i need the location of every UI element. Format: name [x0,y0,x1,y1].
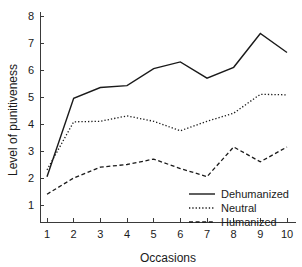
legend-label-neutral: Neutral [221,202,256,214]
y-axis-ticks: 12345678 [28,10,44,211]
x-tick-label: 2 [71,228,77,240]
x-tick-label: 3 [97,228,103,240]
y-tick-label: 3 [28,145,34,157]
y-axis-title: Level of punitiveness [6,64,20,176]
y-tick-label: 2 [28,172,34,184]
line-chart: 12345678 Level of punitiveness 123456789… [0,0,302,267]
chart-legend: DehumanizedNeutralHumanized [189,188,289,228]
y-tick-label: 4 [28,118,34,130]
legend-label-dehumanized: Dehumanized [221,188,289,200]
x-tick-label: 7 [204,228,210,240]
x-axis-title: Occasions [140,251,196,265]
x-tick-label: 1 [44,228,50,240]
data-series-group [47,34,287,195]
legend-label-humanized: Humanized [221,216,277,228]
x-tick-label: 10 [281,228,293,240]
x-tick-label: 8 [231,228,237,240]
series-line-dehumanized [47,34,287,177]
y-axis: 12345678 Level of punitiveness [6,10,44,222]
x-tick-label: 4 [124,228,130,240]
y-tick-label: 6 [28,64,34,76]
x-tick-label: 9 [257,228,263,240]
y-tick-label: 1 [28,199,34,211]
y-tick-label: 7 [28,37,34,49]
x-tick-label: 6 [177,228,183,240]
series-line-neutral [47,94,287,170]
y-tick-label: 8 [28,10,34,22]
chart-figure: 12345678 Level of punitiveness 123456789… [0,0,302,267]
y-tick-label: 5 [28,91,34,103]
x-tick-label: 5 [151,228,157,240]
